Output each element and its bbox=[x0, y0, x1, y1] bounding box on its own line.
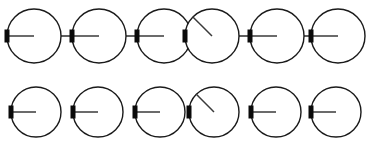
dial-marker bbox=[71, 106, 76, 119]
dial-bottom-row-3[interactable] bbox=[133, 87, 186, 137]
dial-marker bbox=[133, 106, 138, 119]
dial-bottom-row-6[interactable] bbox=[309, 87, 362, 137]
dial-bottom-row-2[interactable] bbox=[71, 87, 124, 137]
dial-marker bbox=[9, 106, 14, 119]
dial-marker bbox=[5, 30, 10, 43]
dial-marker bbox=[187, 106, 192, 119]
dial-marker bbox=[183, 30, 188, 43]
dial-diagram bbox=[0, 0, 371, 142]
dial-row-bottom-row bbox=[9, 87, 362, 137]
dial-top-row-2[interactable] bbox=[70, 9, 127, 63]
dial-top-row-5[interactable] bbox=[248, 9, 305, 63]
dial-marker bbox=[135, 30, 140, 43]
dial-bottom-row-5[interactable] bbox=[249, 87, 302, 137]
dial-marker bbox=[248, 30, 253, 43]
dial-bottom-row-4[interactable] bbox=[187, 87, 240, 137]
dial-top-row-6[interactable] bbox=[309, 9, 366, 63]
diagram-canvas bbox=[0, 0, 371, 142]
dial-marker bbox=[309, 30, 314, 43]
dial-marker bbox=[249, 106, 254, 119]
dial-row-top-row bbox=[5, 9, 366, 63]
dial-bottom-row-1[interactable] bbox=[9, 87, 62, 137]
dial-top-row-1[interactable] bbox=[5, 9, 62, 63]
dial-marker bbox=[309, 106, 314, 119]
dials-layer bbox=[5, 9, 366, 137]
dial-top-row-4[interactable] bbox=[183, 9, 240, 63]
dial-marker bbox=[70, 30, 75, 43]
